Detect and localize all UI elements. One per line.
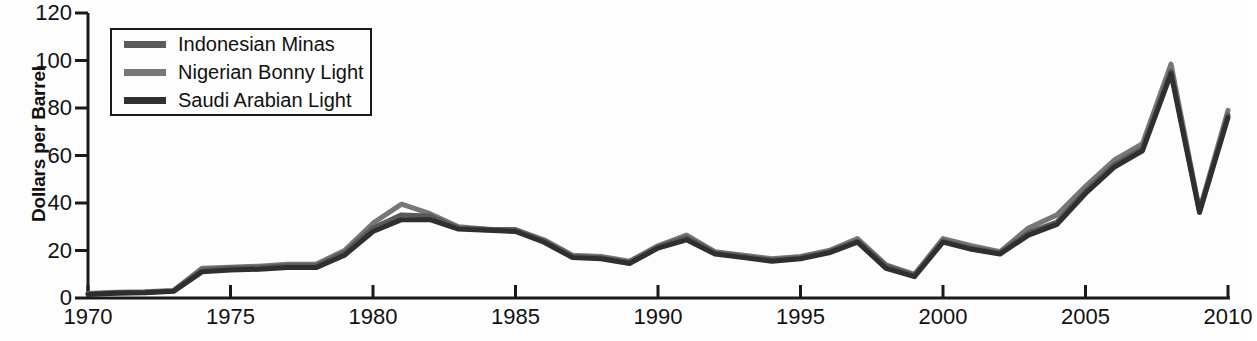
legend-item-label: Saudi Arabian Light — [178, 90, 351, 110]
chart-legend: Indonesian Minas Nigerian Bonny Light Sa… — [110, 28, 372, 116]
legend-item-label: Indonesian Minas — [178, 34, 335, 54]
legend-swatch-icon — [124, 97, 166, 104]
legend-item-label: Nigerian Bonny Light — [178, 62, 364, 82]
x-axis-ticks — [88, 285, 1228, 298]
legend-item: Nigerian Bonny Light — [112, 58, 370, 86]
legend-swatch-icon — [124, 41, 166, 48]
y-axis-ticks — [75, 13, 88, 298]
legend-swatch-icon — [124, 69, 166, 76]
legend-item: Saudi Arabian Light — [112, 86, 370, 114]
legend-item: Indonesian Minas — [112, 30, 370, 58]
